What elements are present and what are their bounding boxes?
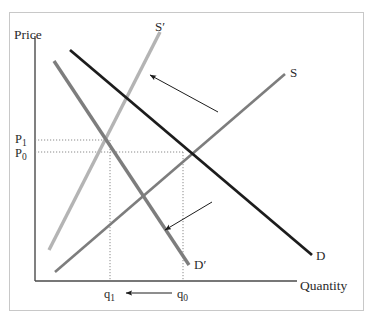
y-tick-p1-subscript: 1 bbox=[22, 138, 27, 148]
x-tick-q1-subscript: 1 bbox=[110, 293, 115, 303]
y-axis-title: Price bbox=[14, 28, 42, 42]
plot-canvas bbox=[0, 0, 373, 323]
curve-supply-shifted bbox=[49, 32, 160, 250]
y-tick-label-p0: P0 bbox=[15, 147, 27, 160]
y-tick-label-p1: P1 bbox=[15, 133, 27, 146]
curve-label-supply-original: S bbox=[290, 66, 297, 79]
supply-demand-figure: Price Quantity S′ S D D′ P1 P0 q1 q0 bbox=[0, 0, 373, 323]
curve-demand-shifted bbox=[54, 61, 189, 265]
x-tick-label-q0: q0 bbox=[177, 288, 188, 301]
supply-shift-arrow bbox=[150, 75, 218, 112]
x-axis-title: Quantity bbox=[300, 279, 347, 293]
y-tick-p0-base: P bbox=[15, 146, 22, 160]
x-tick-q0-subscript: 0 bbox=[183, 293, 188, 303]
y-tick-p1-base: P bbox=[15, 132, 22, 146]
demand-shift-arrow bbox=[165, 202, 212, 230]
x-tick-label-q1: q1 bbox=[104, 288, 115, 301]
curve-label-demand-original: D bbox=[316, 249, 325, 262]
curve-label-supply-shifted: S′ bbox=[155, 20, 165, 33]
curve-label-demand-shifted: D′ bbox=[194, 258, 206, 271]
y-tick-p0-subscript: 0 bbox=[22, 152, 27, 162]
